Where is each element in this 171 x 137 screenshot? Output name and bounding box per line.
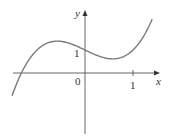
function-graph: y x 0 1 1 <box>0 0 171 137</box>
x-tick-label-1: 1 <box>130 79 136 91</box>
x-axis-label: x <box>155 75 161 87</box>
origin-label: 0 <box>75 75 81 87</box>
y-axis-arrow-icon <box>83 10 88 16</box>
y-tick-label-1: 1 <box>74 47 80 59</box>
y-axis-label: y <box>74 7 80 19</box>
